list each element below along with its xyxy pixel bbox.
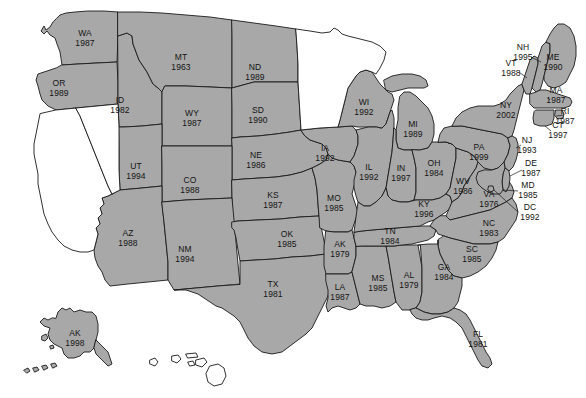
state-shape-co[interactable] — [162, 146, 232, 202]
state-shape-ak-small-isle[interactable] — [42, 334, 48, 341]
state-shape-ut[interactable] — [119, 124, 162, 190]
state-shape-ri[interactable] — [555, 110, 564, 119]
state-shape-ak-tiny-isle[interactable] — [50, 345, 54, 349]
state-shape-hi-oahu[interactable] — [172, 355, 181, 363]
state-shape-ak-inset[interactable] — [40, 308, 98, 358]
state-shape-wa[interactable] — [41, 11, 118, 65]
state-shape-hi-kauai[interactable] — [150, 358, 158, 366]
leader-line-de — [510, 170, 522, 176]
state-shape-ar[interactable] — [324, 230, 356, 274]
state-shape-or[interactable] — [36, 62, 118, 110]
state-shape-sd[interactable] — [232, 82, 301, 138]
state-shape-hi-bigisland[interactable] — [206, 364, 226, 386]
state-shape-ct[interactable] — [533, 110, 554, 126]
state-shape-mi-upper[interactable] — [384, 74, 428, 92]
state-shape-fl[interactable] — [410, 308, 492, 368]
state-shape-nm[interactable] — [162, 198, 240, 290]
state-shape-hi-molokai[interactable] — [186, 353, 198, 358]
state-shape-ak-panhandle[interactable] — [94, 340, 112, 366]
leader-line-ct — [545, 126, 551, 131]
state-shape-ok[interactable] — [232, 216, 326, 261]
state-shape-hi-lanai[interactable] — [188, 361, 195, 366]
us-map-svg — [0, 0, 586, 398]
state-shape-nd[interactable] — [232, 20, 298, 88]
state-shape-me[interactable] — [544, 24, 576, 88]
state-shape-mi-lower[interactable] — [396, 92, 434, 150]
state-shape-ma[interactable] — [530, 90, 572, 108]
state-shape-hi-maui[interactable] — [196, 358, 207, 367]
state-shape-dc[interactable] — [488, 186, 494, 192]
state-shape-wy[interactable] — [162, 86, 232, 146]
us-states-map-figure: WA1987OR1989ID1982MT1963WY1987ND1989SD19… — [0, 0, 586, 398]
state-shape-ak-islands[interactable] — [24, 363, 57, 373]
state-shape-az[interactable] — [94, 186, 168, 286]
